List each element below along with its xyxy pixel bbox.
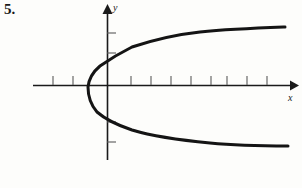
- x-axis-ticks: [53, 76, 267, 85]
- y-axis-label: y: [112, 2, 118, 13]
- y-axis-ticks: [107, 33, 116, 142]
- y-axis-arrowhead: [103, 4, 113, 14]
- x-axis-arrowhead: [290, 81, 299, 91]
- figure-container: 5.: [0, 0, 302, 188]
- x-axis-label: x: [287, 92, 293, 103]
- parabola-curve: [88, 27, 288, 146]
- coordinate-graph: y x: [0, 0, 302, 188]
